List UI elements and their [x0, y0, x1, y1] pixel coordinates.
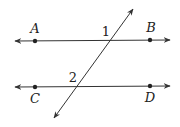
point-d	[148, 84, 152, 88]
transversal-line	[54, 9, 133, 118]
parallel-lines-diagram: A B C D 1 2	[0, 0, 180, 127]
label-a: A	[29, 21, 39, 36]
point-a	[33, 39, 37, 43]
label-c: C	[30, 91, 40, 106]
angle-label-1: 1	[102, 24, 110, 39]
line-ab	[15, 40, 170, 41]
label-d: D	[144, 90, 156, 105]
point-b	[148, 38, 152, 42]
line-cd	[15, 86, 170, 87]
point-c	[33, 85, 37, 89]
label-b: B	[145, 20, 156, 35]
angle-label-2: 2	[69, 70, 77, 85]
